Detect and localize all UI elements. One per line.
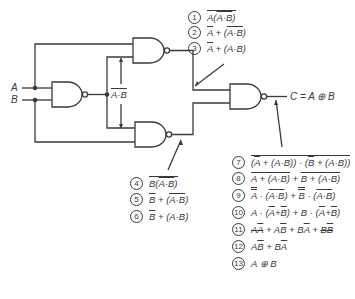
gate4-bubble bbox=[261, 94, 266, 99]
step-13: 13 A ⊕ B bbox=[232, 257, 277, 270]
step-12: 12 AB + BA bbox=[232, 240, 287, 253]
pointer-7 bbox=[276, 100, 282, 147]
pointer-4-6 bbox=[168, 140, 181, 170]
pointer-head-3 bbox=[274, 100, 278, 105]
nand-gate-4 bbox=[230, 84, 261, 109]
gate3-bubble bbox=[166, 132, 171, 137]
junction-a bbox=[33, 86, 38, 91]
step-11: 11 AA + AB + BA + BB bbox=[232, 223, 333, 236]
step-5: 5 B + (A·B) bbox=[130, 193, 188, 206]
nab-label: A·B bbox=[111, 89, 127, 101]
pointer-1-3 bbox=[195, 64, 224, 86]
arrowhead-up bbox=[119, 57, 123, 62]
step-number: 13 bbox=[232, 257, 245, 270]
junction-nab bbox=[105, 92, 110, 97]
input-b-label: B bbox=[11, 94, 18, 106]
b-to-gate3-wire bbox=[35, 100, 135, 142]
step-number: 2 bbox=[188, 26, 201, 39]
gate1-bubble bbox=[82, 92, 87, 97]
step-number: 4 bbox=[130, 177, 143, 190]
step-number: 5 bbox=[130, 193, 143, 206]
step-number: 1 bbox=[188, 11, 201, 24]
nand-gate-2 bbox=[133, 38, 164, 63]
a-to-gate2-wire bbox=[35, 44, 133, 88]
step-4: 4 B(A·B) bbox=[130, 176, 178, 190]
gate2-bubble bbox=[164, 48, 169, 53]
gate2-output-wire bbox=[170, 51, 230, 91]
output-label: C = A ⊕ B bbox=[290, 91, 335, 103]
circuit-diagram bbox=[0, 0, 355, 299]
step-number: 8 bbox=[232, 172, 245, 185]
nand-gate-3 bbox=[135, 122, 166, 147]
step-number: 11 bbox=[232, 223, 245, 236]
input-a-label: A bbox=[11, 82, 18, 94]
junction-b bbox=[33, 98, 38, 103]
step-6: 6 B + (A·B) bbox=[130, 210, 188, 223]
step-7: 7 (A + (A·B)) · (B + (A·B)) bbox=[232, 155, 350, 169]
step-number: 12 bbox=[232, 240, 245, 253]
step-8: 8 A + (A·B) + B + (A·B) bbox=[232, 172, 340, 185]
step-10: 10 A · (A+B) + B · (A+B) bbox=[232, 206, 340, 219]
step-number: 10 bbox=[232, 206, 245, 219]
step-number: 3 bbox=[188, 42, 201, 55]
step-number: 9 bbox=[232, 189, 245, 202]
nand-gate-1 bbox=[52, 82, 82, 107]
step-number: 7 bbox=[232, 156, 245, 169]
step-3: 3 A + (A·B) bbox=[188, 42, 246, 55]
step-2: 2 A + (A·B) bbox=[188, 26, 246, 39]
gate3-output-wire bbox=[172, 103, 230, 135]
step-9: 9 A · (A·B) + B · (A·B) bbox=[232, 189, 335, 202]
step-number: 6 bbox=[130, 210, 143, 223]
step-1: 1 A(A·B) bbox=[188, 10, 236, 24]
